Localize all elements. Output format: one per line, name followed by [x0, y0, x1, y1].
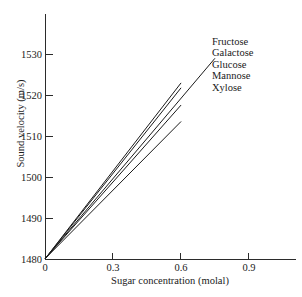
series-line-fructose — [46, 59, 215, 259]
legend-entry-fructose: Fructose — [212, 36, 298, 47]
x-tick-label-0-3: 0.3 — [98, 262, 128, 273]
y-tick-label-1490: 1490 — [2, 213, 42, 224]
x-tick-marks — [113, 253, 249, 260]
legend-entry-xylose: Xylose — [212, 82, 298, 93]
y-tick-marks — [46, 55, 53, 219]
series-line-glucose — [46, 88, 181, 258]
legend: Fructose Galactose Glucose Mannose Xylos… — [212, 36, 298, 93]
x-tick-label-0: 0 — [34, 262, 56, 273]
series-group — [46, 59, 215, 259]
x-axis-label: Sugar concentration (molal) — [45, 275, 295, 286]
legend-entry-glucose: Glucose — [212, 59, 298, 70]
y-axis-label: Sound velocity (m/s) — [15, 59, 26, 189]
chart-figure: 1530 1520 1510 1500 1490 1480 0 0.3 0.6 … — [0, 0, 302, 297]
x-tick-label-0-6: 0.6 — [166, 262, 196, 273]
x-tick-label-0-9: 0.9 — [234, 262, 264, 273]
series-line-mannose — [46, 105, 181, 258]
legend-entry-mannose: Mannose — [212, 70, 298, 81]
legend-entry-galactose: Galactose — [212, 47, 298, 58]
series-line-xylose — [46, 122, 181, 259]
